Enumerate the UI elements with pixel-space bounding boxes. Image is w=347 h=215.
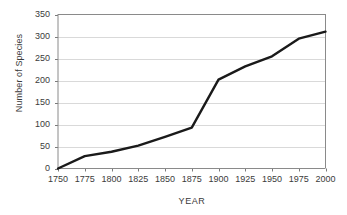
gridlines — [58, 38, 326, 148]
line-chart: Number of Species YEAR 05010015020025030… — [0, 0, 347, 215]
plot-area — [0, 0, 347, 215]
